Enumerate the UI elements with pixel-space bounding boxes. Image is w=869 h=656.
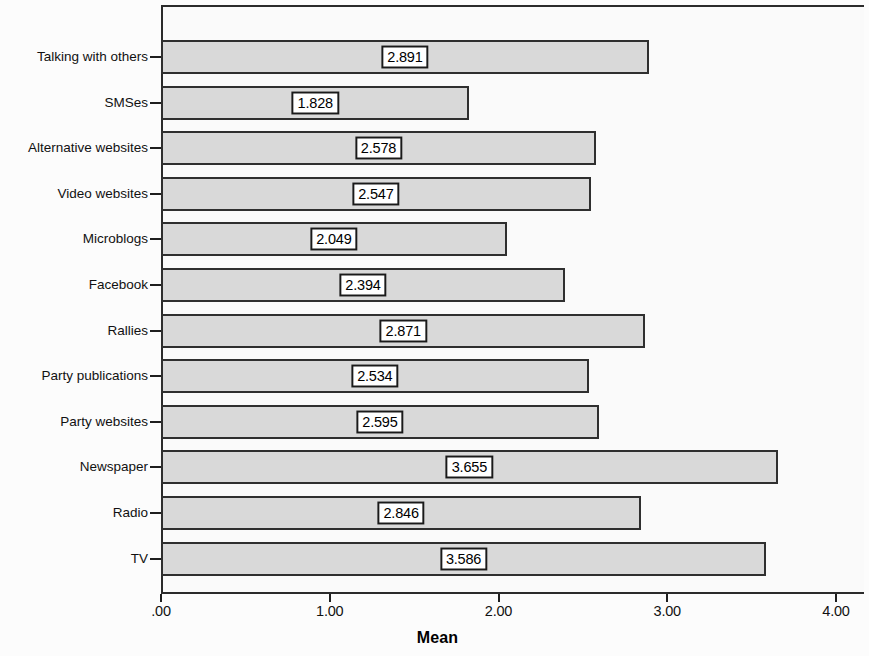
- bar-row: 3.655: [161, 450, 864, 484]
- bar-value-label: 2.049: [310, 228, 357, 251]
- value-tick-label: 4.00: [822, 603, 849, 620]
- category-tick: [150, 330, 161, 332]
- value-tick: [835, 594, 837, 602]
- bar-value-label: 2.846: [377, 502, 424, 525]
- category-tick: [150, 147, 161, 149]
- value-tick-label: .00: [151, 603, 171, 620]
- value-tick-label: 1.00: [316, 603, 343, 620]
- category-tick: [150, 421, 161, 423]
- category-label: Talking with others: [0, 49, 148, 65]
- category-tick: [150, 193, 161, 195]
- category-label: Radio: [0, 505, 148, 521]
- category-label: Alternative websites: [0, 140, 148, 156]
- bar-row: 2.595: [161, 405, 864, 439]
- x-axis-title: Mean: [0, 629, 869, 647]
- bar-row: 2.547: [161, 177, 864, 211]
- bar-value-label: 2.891: [381, 46, 428, 69]
- category-label: Facebook: [0, 277, 148, 293]
- bar-value-label: 2.394: [339, 274, 386, 297]
- category-tick: [150, 284, 161, 286]
- category-label: Video websites: [0, 186, 148, 202]
- category-label: TV: [0, 551, 148, 567]
- category-label: Party websites: [0, 414, 148, 430]
- bar-row: 2.871: [161, 314, 864, 348]
- bar-value-label: 2.534: [351, 365, 398, 388]
- bar-row: 2.049: [161, 222, 864, 256]
- bar-row: 2.578: [161, 131, 864, 165]
- value-tick-label: 3.00: [654, 603, 681, 620]
- bar-row: 2.846: [161, 496, 864, 530]
- bar-row: 2.891: [161, 40, 864, 74]
- bar-value-label: 3.655: [446, 456, 493, 479]
- category-label: Party publications: [0, 368, 148, 384]
- x-axis-title-text: Mean: [417, 629, 459, 646]
- bar-value-label: 2.595: [356, 410, 403, 433]
- value-tick: [498, 594, 500, 602]
- category-label: Newspaper: [0, 459, 148, 475]
- bar-value-label: 2.578: [355, 137, 402, 160]
- bar-row: 1.828: [161, 86, 864, 120]
- bar-value-label: 2.871: [380, 319, 427, 342]
- category-label: SMSes: [0, 95, 148, 111]
- category-tick: [150, 558, 161, 560]
- bar-row: 2.394: [161, 268, 864, 302]
- value-tick: [160, 594, 162, 602]
- category-tick: [150, 466, 161, 468]
- category-tick: [150, 238, 161, 240]
- category-tick: [150, 56, 161, 58]
- bar-chart: 2.8911.8282.5782.5472.0492.3942.8712.534…: [0, 0, 869, 656]
- bar-row: 2.534: [161, 359, 864, 393]
- category-tick: [150, 102, 161, 104]
- category-tick: [150, 375, 161, 377]
- value-tick-label: 2.00: [485, 603, 512, 620]
- bar-value-label: 1.828: [292, 91, 339, 114]
- bar-row: 3.586: [161, 542, 864, 576]
- category-tick: [150, 512, 161, 514]
- bar-value-label: 2.547: [352, 182, 399, 205]
- value-axis-line: [161, 592, 864, 594]
- value-tick: [666, 594, 668, 602]
- category-label: Rallies: [0, 323, 148, 339]
- value-tick: [329, 594, 331, 602]
- category-label: Microblogs: [0, 231, 148, 247]
- bar-value-label: 3.586: [440, 547, 487, 570]
